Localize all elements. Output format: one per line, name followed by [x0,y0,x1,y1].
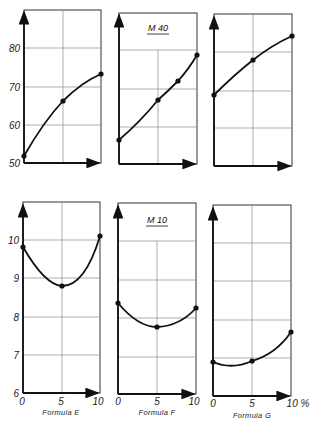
data-curve [24,74,101,156]
panel-bottom-left: 10 9 8 7 6 0 5 10 Formula E [8,202,104,417]
x-axis-label-formula-e: Formula E [42,408,80,417]
y-tick-60: 60 [9,120,21,131]
x-tick-5: 5 [249,398,255,409]
plot-frame [24,10,101,163]
x-axis-label-formula-f: Formula F [139,408,176,417]
data-curve [23,236,100,286]
panel-title-m40: M 40 [148,23,168,33]
panel-top-middle: M 40 [116,13,199,164]
x-tick-5: 5 [154,396,160,407]
y-tick-9: 9 [13,273,19,284]
x-tick-10-percent: 10 % [287,398,310,409]
plot-frame [23,202,100,393]
panel-top-right [211,14,294,166]
y-tick-50: 50 [9,158,21,169]
x-tick-0: 0 [115,396,121,407]
panel-bottom-right: 0 5 10 % Formula G [210,205,309,420]
panel-title-m10: M 10 [147,215,167,225]
x-tick-0: 0 [210,398,216,409]
x-axis-label-formula-g: Formula G [233,411,271,420]
y-tick-70: 70 [9,82,21,93]
x-tick-5: 5 [58,396,64,407]
y-tick-8: 8 [13,312,19,323]
panel-top-left: 80 70 60 50 [9,10,104,169]
y-tick-10: 10 [8,235,20,246]
y-tick-80: 80 [9,43,21,54]
x-tick-0: 0 [19,396,25,407]
x-tick-10: 10 [92,396,104,407]
panel-bottom-middle: M 10 0 5 10 Formula F [115,203,200,417]
chart-figure: 80 70 60 50 M 40 [0,0,315,425]
y-tick-7: 7 [13,350,19,361]
x-tick-10: 10 [188,396,200,407]
